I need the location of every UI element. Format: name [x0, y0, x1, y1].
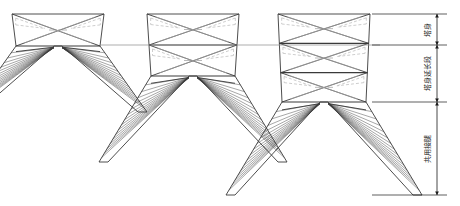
leg-right-fan-bar: [197, 78, 270, 135]
sub-brace: [151, 18, 180, 28]
far-face-brace: [24, 17, 94, 43]
dimension-label-seg-shared-leg: 共用接腿: [423, 135, 432, 163]
leg-right-outer-chord: [366, 102, 422, 195]
leg-right-fan-bar: [62, 48, 132, 91]
far-face-brace: [21, 17, 91, 43]
leg-right-fan-bar: [328, 104, 416, 186]
far-face-brace: [158, 48, 227, 73]
leg-left-inner-chord: [235, 102, 320, 195]
sub-brace: [337, 53, 365, 56]
dimension-arrow-bottom: [435, 99, 439, 102]
leg-right-fan-bar: [328, 104, 398, 155]
dimension-arrow-bottom: [435, 192, 439, 195]
leg-right-fan-bar: [328, 104, 407, 171]
leg-left-fan-bar: [0, 48, 54, 106]
leg-right-fan-bar: [197, 78, 248, 98]
dimension-arrow-top: [435, 102, 439, 105]
leg-left-fan-bar: [113, 78, 189, 140]
leg-left-fan-bar: [110, 78, 189, 144]
leg-right-fan-bar: [197, 78, 273, 140]
sub-brace: [283, 47, 311, 56]
sub-brace: [206, 49, 234, 59]
tower-tower-short: [0, 14, 147, 112]
leg-right-fan-bar: [197, 78, 264, 125]
leg-left-fan-bar: [268, 104, 320, 126]
leg-right-fan-bar: [328, 104, 419, 191]
dimension-label-seg-tower-body: 塔身: [423, 23, 432, 37]
leg-right-fan-bar: [197, 78, 267, 130]
leg-right-fan-bar: [328, 104, 410, 176]
leg-left-fan-bar: [138, 78, 189, 98]
sub-brace: [16, 18, 45, 28]
leg-right-fan-bar: [62, 48, 129, 88]
sub-brace: [282, 18, 311, 27]
leg-right-fan-bar: [328, 104, 394, 150]
dimension-label-seg-body-extension: 塔身延长段: [423, 56, 432, 91]
leg-right-fan-bar: [328, 104, 413, 181]
sub-brace: [283, 53, 311, 56]
drawing-canvas: 塔身塔身延长段共用接腿: [0, 0, 460, 206]
leg-left-fan-bar: [122, 78, 189, 125]
body-rail-right: [366, 14, 370, 102]
sub-brace: [337, 76, 364, 85]
far-face-brace: [156, 17, 228, 42]
leg-right-fan-bar: [62, 48, 124, 80]
leg-left-fan-bar: [119, 78, 189, 130]
sub-brace: [337, 83, 364, 86]
leg-left-fan-bar: [254, 104, 320, 150]
leg-left-outer-chord: [0, 46, 16, 112]
leg-right-fan-bar: [328, 104, 380, 126]
leg-right-fan-bar: [197, 78, 261, 120]
dimension-stack: 塔身塔身延长段共用接腿: [372, 14, 447, 195]
dimension-arrow-top: [435, 14, 439, 17]
leg-right-fan-bar: [328, 104, 404, 166]
leg-left-fan-bar: [238, 104, 320, 176]
leg-left-fan-bar: [102, 78, 189, 158]
tower-elevation-drawing: 塔身塔身延长段共用接腿: [0, 0, 460, 206]
leg-left-fan-bar: [125, 78, 189, 120]
leg-left-outer-chord: [99, 76, 151, 162]
sub-brace: [207, 18, 236, 28]
dimension-arrow-top: [435, 45, 439, 48]
leg-left-fan-bar: [229, 104, 320, 191]
leg-left-fan-bar: [0, 48, 54, 72]
sub-brace: [284, 76, 311, 85]
sub-brace: [338, 18, 367, 27]
leg-right-fan-bar: [197, 78, 276, 144]
leg-left-fan-bar: [232, 104, 320, 186]
leg-right-fan-bar: [328, 104, 401, 161]
tower-tower-tall: [226, 14, 422, 195]
sub-brace: [337, 47, 365, 56]
leg-left-fan-bar: [116, 78, 189, 135]
body-rail-left: [278, 14, 282, 102]
leg-right-inner-chord: [328, 102, 413, 195]
leg-left-fan-bar: [107, 78, 189, 149]
sub-brace: [153, 49, 181, 59]
sub-brace: [284, 83, 311, 86]
dimension-arrow-bottom: [435, 42, 439, 45]
sub-brace: [206, 56, 234, 59]
leg-right-fan-bar: [197, 78, 284, 158]
leg-left-fan-bar: [241, 104, 320, 171]
leg-right-fan-bar: [62, 48, 135, 95]
leg-right-fan-bar: [197, 78, 279, 149]
sub-brace: [153, 56, 181, 59]
sub-brace: [71, 18, 100, 28]
leg-right-fan-bar: [62, 48, 127, 84]
